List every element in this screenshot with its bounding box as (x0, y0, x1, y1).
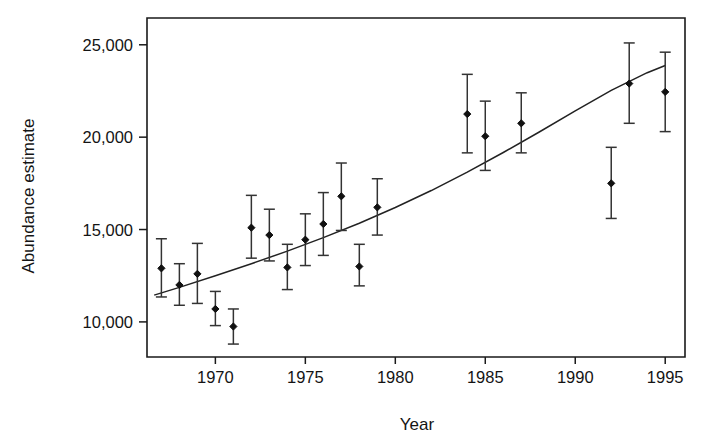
data-point-marker (338, 193, 345, 200)
data-point-marker (212, 305, 219, 312)
data-point-marker (518, 120, 525, 127)
y-tick-label: 20,000 (83, 128, 133, 146)
data-point-marker (194, 270, 201, 277)
x-tick-label: 1995 (647, 368, 684, 386)
x-axis-title: Year (400, 415, 435, 434)
data-point-markers (158, 80, 669, 330)
axes-box (147, 18, 685, 357)
x-tick-label: 1990 (557, 368, 594, 386)
plot-frame (147, 18, 685, 357)
abundance-scatter-chart: 197019751980198519901995 10,00015,00020,… (0, 0, 718, 438)
data-point-marker (482, 133, 489, 140)
y-tick-label: 25,000 (83, 36, 133, 54)
data-point-marker (302, 236, 309, 243)
data-point-marker (158, 265, 165, 272)
data-point-marker (284, 264, 291, 271)
x-axis-ticks (215, 357, 665, 364)
y-axis-title: Abundance estimate (19, 119, 38, 274)
y-axis-ticks (139, 45, 147, 322)
data-point-marker (320, 220, 327, 227)
x-axis-tick-labels: 197019751980198519901995 (197, 368, 684, 386)
y-tick-label: 10,000 (83, 313, 133, 331)
y-tick-label: 15,000 (83, 221, 133, 239)
data-point-marker (356, 263, 363, 270)
x-tick-label: 1985 (467, 368, 504, 386)
data-point-marker (266, 231, 273, 238)
y-axis-tick-labels: 10,00015,00020,00025,000 (83, 36, 133, 331)
data-point-marker (248, 224, 255, 231)
figure-container: 197019751980198519901995 10,00015,00020,… (0, 0, 718, 438)
x-tick-label: 1980 (377, 368, 414, 386)
data-point-marker (230, 323, 237, 330)
data-point-marker (374, 204, 381, 211)
x-tick-label: 1970 (197, 368, 234, 386)
data-point-marker (464, 110, 471, 117)
error-bars (156, 43, 671, 344)
data-point-marker (608, 180, 615, 187)
data-point-marker (662, 88, 669, 95)
x-tick-label: 1975 (287, 368, 324, 386)
trend-line (154, 65, 665, 295)
